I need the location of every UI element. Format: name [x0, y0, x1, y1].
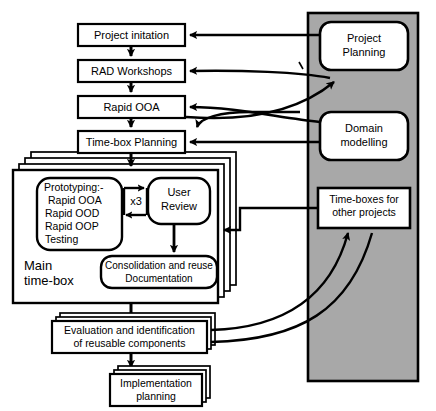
rad-workshops-box [78, 60, 185, 82]
project-planning-box [320, 22, 408, 70]
time-boxes-other-box [318, 188, 410, 228]
user-review-box [148, 178, 210, 224]
prototyping-box [37, 178, 122, 250]
domain-modelling-box [320, 112, 408, 160]
consolidation-box [101, 256, 217, 288]
rapid-ooa-box [78, 96, 185, 118]
stray-tick-mark [299, 62, 303, 69]
project-initiation-box [78, 24, 185, 46]
diagram-canvas: Project initation RAD Workshops Rapid OO… [0, 0, 436, 411]
time-box-planning-box [78, 131, 185, 153]
link-ooa-branch-to-planning [197, 112, 250, 127]
implementation-box [110, 374, 202, 406]
diagram-vector-layer [0, 0, 436, 411]
evaluation-box [52, 321, 207, 353]
link-other-timeboxes-to-main [224, 208, 318, 230]
